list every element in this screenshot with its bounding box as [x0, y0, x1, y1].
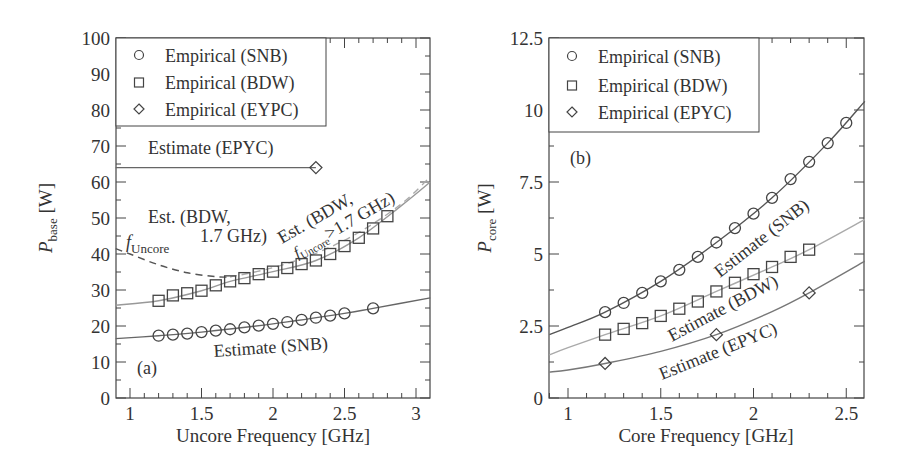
y-tick-label: 12.5 — [510, 28, 543, 49]
panel-label-a: (a) — [137, 358, 157, 379]
x-tick-label: 1 — [563, 403, 573, 424]
y-tick-label: 90 — [91, 64, 110, 85]
y-tick-label: 20 — [91, 316, 110, 337]
legend-label: Empirical (SNB) — [598, 47, 720, 68]
figure: 11.522.530102030405060708090100 Empirica… — [0, 0, 907, 475]
y-label-unit: [W] — [35, 183, 56, 214]
legend-label: Empirical (SNB) — [165, 46, 287, 67]
x-tick-label: 2 — [268, 403, 278, 424]
x-axis-label-b: Core Frequency [GHz] — [618, 425, 793, 446]
chart-b: 11.522.502.557.51012.5 Empirical (SNB) E… — [474, 28, 865, 446]
legend-b: Empirical (SNB) Empirical (BDW) Empirica… — [549, 38, 759, 132]
x-tick-label: 2 — [749, 403, 759, 424]
legend-label: Empirical (EYPC) — [165, 100, 298, 121]
annotation-estimate-snb: Estimate (SNB) — [213, 333, 329, 362]
x-tick-label: 1.5 — [649, 403, 673, 424]
circle-marker-icon — [785, 174, 796, 185]
y-axis-label-a-text: Pbase [W] — [35, 183, 60, 254]
y-axis-label-b: Pcore [W] — [474, 183, 499, 253]
y-tick-label: 100 — [82, 28, 111, 49]
y-tick-label: 7.5 — [519, 172, 543, 193]
y-tick-label: 50 — [91, 208, 110, 229]
y-label-main: P — [474, 241, 495, 254]
annotation-estimate-epyc: Estimate (EPYC) — [148, 138, 273, 159]
annotation-f-uncore: fUncore — [126, 232, 170, 256]
x-tick-label: 1 — [125, 403, 135, 424]
y-tick-label: 2.5 — [519, 316, 543, 337]
f-subscript: Uncore — [298, 235, 332, 262]
estimate-lines-b — [549, 101, 864, 372]
x-axis-label-a: Uncore Frequency [GHz] — [176, 425, 370, 446]
annotation-estimate-snb-b-text: Estimate (SNB) — [710, 195, 813, 282]
chart-a: 11.522.530102030405060708090100 Empirica… — [35, 28, 430, 446]
y-tick-label: 10 — [524, 100, 543, 121]
legend-a: Empirical (SNB) Empirical (BDW) Empirica… — [116, 38, 326, 126]
y-tick-label: 0 — [101, 388, 111, 409]
panel-label-b: (b) — [570, 148, 591, 169]
f-subscript: Uncore — [131, 241, 169, 256]
x-tick-label: 2.5 — [834, 403, 858, 424]
annotation-est-bdw-low-2: 1.7 GHz) — [200, 226, 267, 247]
x-tick-label: 2.5 — [333, 403, 357, 424]
y-tick-label: 60 — [91, 172, 110, 193]
y-axis-label-a: Pbase [W] — [35, 183, 60, 254]
data-markers-a — [153, 162, 393, 342]
legend-label: Empirical (BDW) — [598, 76, 727, 97]
y-tick-label: 80 — [91, 100, 110, 121]
estimate-line — [549, 219, 864, 354]
y-tick-label: 10 — [91, 352, 110, 373]
annotation-estimate-snb-b: Estimate (SNB) — [710, 195, 813, 282]
annotation-est-bdw-low-1: Est. (BDW, — [148, 207, 231, 228]
annotation-estimate-snb-text: Estimate (SNB) — [213, 333, 329, 362]
y-label-sub: base — [45, 218, 60, 241]
y-label-main: P — [35, 241, 56, 254]
x-tick-label: 3 — [411, 403, 421, 424]
y-label-unit: [W] — [474, 183, 495, 214]
y-axis-label-b-text: Pcore [W] — [474, 183, 499, 253]
y-tick-label: 70 — [91, 136, 110, 157]
y-tick-label: 40 — [91, 244, 110, 265]
legend-label: Empirical (BDW) — [165, 73, 294, 94]
y-label-sub: core — [484, 218, 499, 241]
x-tick-label: 1.5 — [190, 403, 214, 424]
y-tick-label: 30 — [91, 280, 110, 301]
y-tick-label: 0 — [534, 388, 544, 409]
y-tick-label: 5 — [534, 244, 544, 265]
legend-label: Empirical (EPYC) — [598, 103, 731, 124]
estimate-line — [549, 101, 864, 334]
